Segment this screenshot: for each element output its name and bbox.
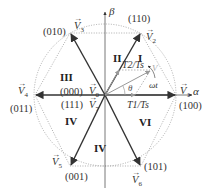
vector-v4-label: →V4	[18, 86, 28, 99]
vector-v3-label: →V3	[74, 21, 84, 34]
sector-label-6: VI	[139, 117, 151, 128]
vector-v3-code: (010)	[43, 27, 66, 38]
vector-v2-code: (110)	[128, 14, 150, 25]
alpha-axis-label: α	[193, 86, 199, 97]
vector-v0-code: (000)	[60, 87, 83, 98]
vector-v4-code: (011)	[10, 104, 32, 115]
t2-ratio-label: T2/Ts	[122, 60, 144, 70]
omega-t-label: ωt	[149, 81, 158, 90]
vector-v1-label: →V1	[180, 86, 190, 99]
vector-v7-label: →V7	[89, 100, 99, 113]
vector-v6-code: (101)	[144, 162, 167, 173]
vector-v5-code: (001)	[65, 172, 88, 183]
vector-v7-code: (111)	[61, 100, 83, 111]
sector-label-4: IV	[65, 116, 77, 127]
sector-label-3: III	[60, 72, 73, 83]
theta-label: θ	[128, 84, 132, 93]
vector-v6-label: →V6	[132, 175, 142, 188]
reference-vector-label: V	[152, 64, 158, 73]
vector-v1-code: (100)	[179, 101, 202, 112]
sector-label-2: II	[113, 53, 122, 64]
theta-arc	[123, 86, 125, 95]
vector-v5-label: →V5	[52, 157, 62, 170]
vector-v2-label: →V2	[146, 32, 156, 45]
beta-axis-label: β	[109, 6, 114, 17]
t1-ratio-label: T1/Ts	[127, 100, 149, 110]
sector-label-5: IV	[94, 143, 106, 154]
